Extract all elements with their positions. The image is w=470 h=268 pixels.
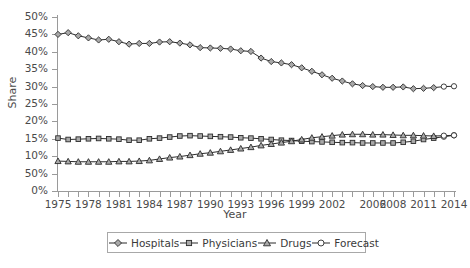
data-point-marker	[167, 135, 172, 140]
legend-item-forecast[interactable]: Forecast	[311, 237, 378, 249]
data-point-marker	[198, 134, 203, 139]
data-point-marker	[309, 68, 315, 74]
data-point-marker	[249, 136, 254, 141]
data-point-marker	[268, 58, 274, 64]
data-point-marker	[146, 40, 152, 46]
data-point-marker	[106, 137, 111, 142]
data-point-marker	[137, 138, 142, 143]
data-point-marker	[156, 39, 162, 45]
data-point-marker	[66, 137, 71, 142]
data-point-marker	[114, 239, 121, 246]
data-point-marker	[451, 84, 456, 89]
legend-label: Physicians	[202, 237, 257, 249]
data-point-marker	[76, 137, 81, 142]
data-point-marker	[288, 62, 294, 68]
data-point-marker	[451, 133, 456, 138]
data-point-marker	[117, 137, 122, 142]
data-point-marker	[441, 84, 446, 89]
data-point-marker	[187, 42, 193, 48]
data-point-marker	[106, 36, 112, 42]
data-point-marker	[320, 140, 325, 145]
data-point-marker	[278, 60, 284, 66]
data-point-marker	[96, 136, 101, 141]
legend-item-hospitals[interactable]: Hospitals	[108, 237, 179, 249]
data-point-marker	[85, 35, 91, 41]
data-point-marker	[56, 136, 61, 141]
data-point-marker	[126, 41, 132, 47]
data-point-marker	[228, 135, 233, 140]
data-point-marker	[248, 48, 254, 54]
series-drugs	[55, 131, 457, 164]
legend-label: Drugs	[280, 237, 311, 249]
data-point-marker	[178, 134, 183, 139]
data-point-marker	[259, 137, 264, 142]
data-point-marker	[370, 141, 375, 146]
data-point-marker	[339, 78, 345, 84]
legend-label: Hospitals	[131, 237, 179, 249]
data-point-marker	[127, 138, 132, 143]
data-point-marker	[329, 75, 335, 81]
data-point-marker	[318, 240, 324, 246]
legend-marker-triangle-icon	[257, 237, 277, 249]
data-point-marker	[411, 139, 416, 144]
data-point-marker	[208, 134, 213, 139]
legend-marker-diamond-icon	[108, 237, 128, 249]
data-point-marker	[258, 55, 264, 61]
data-point-marker	[86, 137, 91, 142]
data-point-marker	[370, 83, 376, 89]
legend-item-physicians[interactable]: Physicians	[179, 237, 257, 249]
data-point-marker	[349, 81, 355, 87]
data-point-marker	[187, 240, 192, 245]
data-point-marker	[319, 72, 325, 78]
data-point-marker	[136, 40, 142, 46]
series-hospitals	[55, 30, 457, 92]
data-point-marker	[340, 140, 345, 145]
data-point-marker	[218, 134, 223, 139]
data-point-marker	[431, 85, 437, 91]
data-point-marker	[360, 82, 366, 88]
data-point-marker	[65, 30, 71, 36]
data-point-marker	[75, 33, 81, 39]
data-point-marker	[330, 140, 335, 145]
data-point-marker	[207, 45, 213, 51]
data-point-marker	[381, 141, 386, 146]
data-point-marker	[238, 135, 243, 140]
data-point-marker	[391, 141, 396, 146]
legend-marker-square-icon	[179, 237, 199, 249]
data-point-marker	[177, 40, 183, 46]
series-physicians	[56, 133, 457, 146]
data-point-marker	[390, 84, 396, 90]
data-point-marker	[410, 86, 416, 92]
data-point-marker	[299, 65, 305, 71]
data-point-marker	[420, 85, 426, 91]
data-point-marker	[400, 84, 406, 90]
data-point-marker	[238, 48, 244, 54]
legend-item-drugs[interactable]: Drugs	[257, 237, 311, 249]
data-point-marker	[96, 37, 102, 43]
data-point-marker	[441, 133, 446, 138]
data-point-marker	[360, 141, 365, 146]
data-point-marker	[217, 45, 223, 51]
data-point-marker	[116, 39, 122, 45]
data-point-marker	[350, 140, 355, 145]
legend-label: Forecast	[334, 237, 378, 249]
chart-container: Share Year 50%45%40%35%30%25%20%15%10%50…	[0, 0, 470, 268]
data-point-marker	[228, 46, 234, 52]
data-point-marker	[401, 140, 406, 145]
data-point-marker	[157, 136, 162, 141]
data-point-marker	[197, 45, 203, 51]
data-point-marker	[167, 39, 173, 45]
data-point-marker	[380, 84, 386, 90]
data-point-marker	[147, 137, 152, 142]
chart-legend: HospitalsPhysiciansDrugsForecast	[107, 232, 366, 253]
data-point-marker	[188, 133, 193, 138]
data-point-marker	[55, 31, 61, 37]
series-plot-area	[0, 0, 470, 268]
legend-marker-circle-open-icon	[311, 237, 331, 249]
